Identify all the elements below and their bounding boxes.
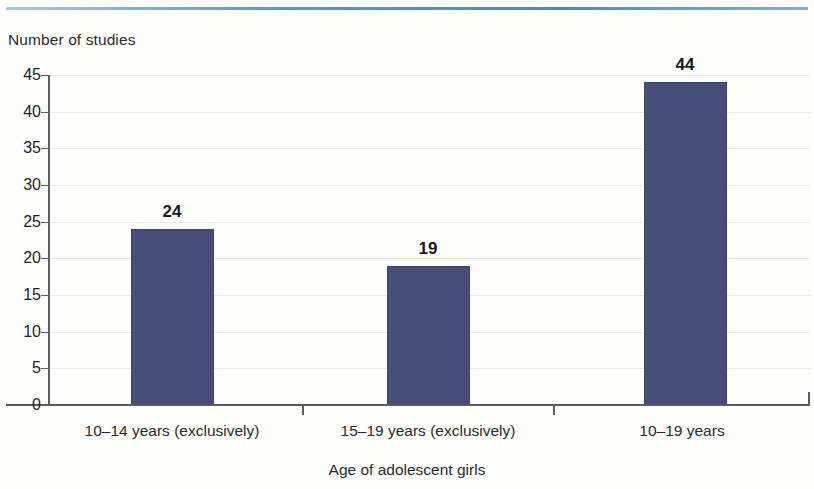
y-axis-tick-label: 0 [1, 397, 41, 413]
bar [644, 82, 727, 405]
x-axis-line [6, 404, 810, 406]
bar [387, 266, 470, 405]
x-axis-title: Age of adolescent girls [0, 461, 814, 479]
gridline [48, 75, 810, 76]
y-axis-tick-mark [41, 258, 48, 259]
chart-page: Number of studies 051015202530354045 241… [0, 0, 814, 489]
y-axis-tick-mark [41, 222, 48, 223]
x-axis-end-tick [808, 392, 810, 406]
y-axis-tick-labels: 051015202530354045 [0, 75, 41, 405]
y-axis-tick-mark [41, 185, 48, 186]
y-axis-title: Number of studies [8, 31, 135, 49]
top-rule-divider [6, 7, 808, 10]
x-axis-tick-mark [302, 406, 304, 415]
y-axis-tick-mark [41, 75, 48, 76]
y-axis-tick-mark [41, 368, 48, 369]
x-axis-category-label: 15–19 years (exclusively) [302, 423, 554, 439]
y-axis-tick-mark [41, 295, 48, 296]
y-axis-tick-label: 25 [1, 214, 41, 230]
x-axis-category-label: 10–19 years [554, 423, 810, 439]
y-axis-tick-mark [41, 332, 48, 333]
y-axis-tick-label: 10 [1, 324, 41, 340]
y-axis-tick-label: 45 [1, 67, 41, 83]
y-axis-tick-mark [41, 112, 48, 113]
y-axis-tick-label: 30 [1, 177, 41, 193]
y-axis-tick-mark [41, 405, 48, 406]
y-axis-tick-label: 5 [1, 360, 41, 376]
bar-value-label: 24 [132, 203, 212, 220]
bar-value-label: 19 [388, 240, 468, 257]
bar [131, 229, 214, 405]
y-axis-tick-mark [41, 148, 48, 149]
x-axis-tick-mark [553, 406, 555, 415]
y-axis-tick-label: 35 [1, 140, 41, 156]
bar-value-label: 44 [645, 56, 725, 73]
y-axis-tick-label: 15 [1, 287, 41, 303]
y-axis-tick-label: 40 [1, 104, 41, 120]
x-axis-category-label: 10–14 years (exclusively) [42, 423, 302, 439]
y-axis-tick-label: 20 [1, 250, 41, 266]
y-axis-line [48, 75, 50, 406]
